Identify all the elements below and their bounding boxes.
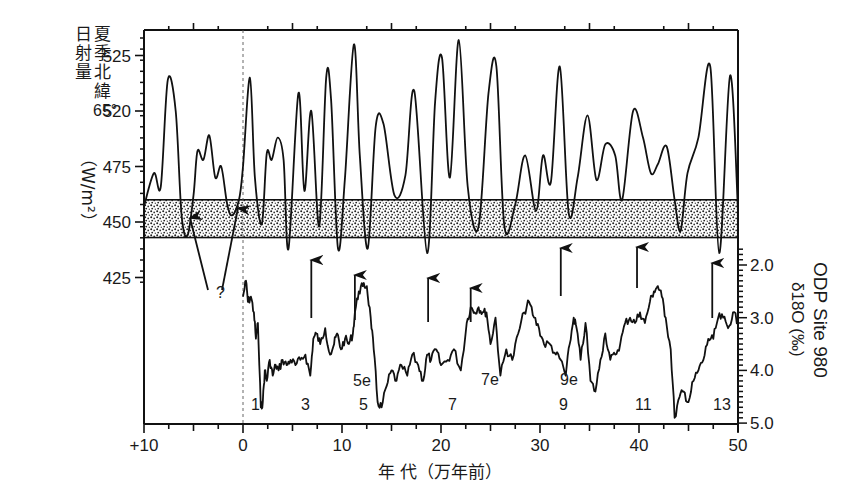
x-tick-label: +10 bbox=[130, 436, 159, 455]
stage-label: 9e bbox=[560, 371, 578, 388]
stage-label: 5 bbox=[359, 396, 368, 413]
y-tick-label-insolation: 425 bbox=[103, 269, 131, 288]
x-tick-label: 10 bbox=[333, 436, 352, 455]
right-axis-title: ODP Site 980 δ18O (‰) bbox=[788, 262, 831, 378]
left-title-char: 量 bbox=[75, 62, 92, 82]
left-title-char: 緯 bbox=[94, 81, 111, 101]
left-title-char: 日 bbox=[75, 24, 92, 44]
stage-label: 7e bbox=[481, 371, 499, 388]
stage-label: ? bbox=[216, 284, 225, 301]
stage-label: 13 bbox=[713, 396, 731, 413]
y-tick-label-insolation: 475 bbox=[103, 158, 131, 177]
left-title-char: 季 bbox=[94, 43, 111, 63]
x-tick-label: 30 bbox=[531, 436, 550, 455]
y-tick-label-d18o: 4.0 bbox=[750, 361, 774, 380]
right-title-site: ODP Site 980 bbox=[810, 262, 831, 378]
left-title-char: 北 bbox=[94, 62, 111, 82]
left-axis-title: 夏 季 北 緯 日 射 量 65° （W/m²） bbox=[75, 24, 117, 230]
y-tick-label-d18o: 2.0 bbox=[750, 256, 774, 275]
x-tick-label: 50 bbox=[729, 436, 748, 455]
x-axis: +1001020304050 bbox=[130, 23, 748, 455]
insolation-d18o-chart: +1001020304050 525520475450425 2.03.04.0… bbox=[0, 0, 858, 493]
x-axis-title: 年 代（万年前） bbox=[378, 462, 502, 482]
x-tick-label: 40 bbox=[630, 436, 649, 455]
stage-label: 5e bbox=[353, 372, 371, 389]
mis-stage-labels: ?135e577e9e91113 bbox=[216, 284, 731, 413]
x-tick-label: 20 bbox=[432, 436, 451, 455]
stage-label: 11 bbox=[635, 396, 652, 413]
x-tick-label: 0 bbox=[238, 436, 247, 455]
right-title-unit: δ18O (‰) bbox=[788, 282, 807, 357]
stage-label: 7 bbox=[448, 396, 457, 413]
left-title-latitude: 65° bbox=[93, 102, 117, 119]
stage-label: 9 bbox=[559, 396, 568, 413]
y-tick-label-d18o: 3.0 bbox=[750, 309, 774, 328]
stage-label: 1 bbox=[251, 396, 260, 413]
d18o-curve bbox=[243, 281, 738, 418]
stage-label: 3 bbox=[301, 396, 310, 413]
left-title-char: 夏 bbox=[94, 24, 111, 44]
left-title-unit: （W/m²） bbox=[78, 150, 98, 230]
left-title-char: 射 bbox=[75, 43, 92, 63]
y-axis-d18o: 2.03.04.05.0 bbox=[738, 249, 774, 433]
y-tick-label-d18o: 5.0 bbox=[750, 414, 774, 433]
y-tick-label-insolation: 450 bbox=[103, 213, 131, 232]
